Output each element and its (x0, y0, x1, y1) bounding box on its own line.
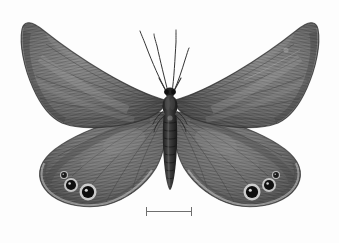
scale-bar-line (146, 211, 192, 212)
eyespot-left-1 (60, 171, 68, 179)
scale-bar-tick-right (191, 207, 192, 216)
eyespot-left-2 (64, 178, 78, 192)
eyespot-right-1 (272, 171, 280, 179)
eyespot-right-3 (244, 184, 261, 201)
specimen-plate (0, 0, 339, 243)
compound-eye-left (164, 90, 169, 95)
compound-eye-right (171, 90, 176, 95)
scale-bar (146, 205, 192, 218)
eyespot-left-3 (80, 184, 97, 201)
scale-bar-tick-left (146, 207, 147, 216)
eyespot-right-2 (262, 178, 276, 192)
